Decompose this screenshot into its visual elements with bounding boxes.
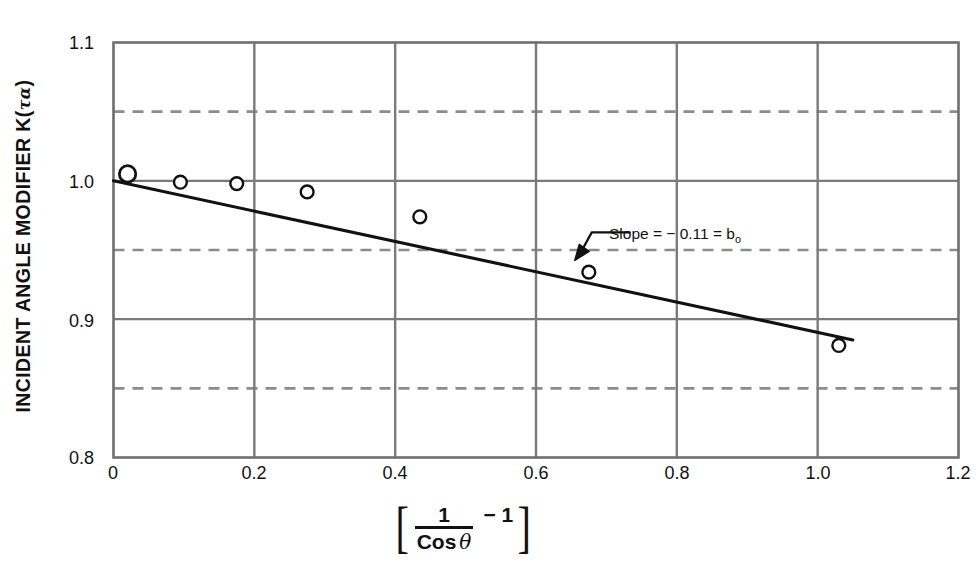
- fit-line: [114, 181, 853, 340]
- fraction-numerator: 1: [434, 504, 454, 526]
- chart-figure: INCIDENT ANGLE MODIFIER K(τα) 1.1 1.0 0.…: [0, 0, 979, 573]
- slope-annotation-subscript: o: [735, 233, 741, 245]
- vertical-gridlines: [254, 43, 817, 458]
- slope-annotation-text: Slope = − 0.11 = b: [609, 225, 735, 242]
- x-axis-fraction: 1 Cosθ: [415, 504, 474, 552]
- slope-annotation: Slope = − 0.11 = bo: [609, 225, 741, 245]
- x-axis-minus-one: − 1: [483, 503, 513, 527]
- fraction-denominator: Cosθ: [415, 529, 474, 552]
- bracket-left-icon: [: [396, 505, 409, 551]
- bracket-right-icon: ]: [518, 505, 531, 551]
- x-axis-title: [ 1 Cosθ − 1 ]: [393, 492, 534, 564]
- plot-area: [0, 0, 979, 573]
- theta-symbol: θ: [456, 530, 471, 554]
